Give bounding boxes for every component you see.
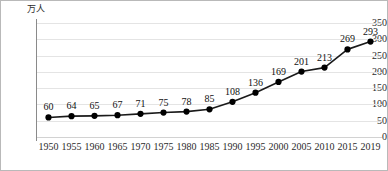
data-point-marker — [45, 114, 51, 120]
x-axis-tick-label: 2019 — [354, 141, 388, 153]
plot-area: 6064656771757885108136169201213269293 — [37, 23, 382, 137]
data-point-label: 169 — [262, 66, 296, 77]
data-point-marker — [275, 79, 281, 85]
data-point-marker — [91, 113, 97, 119]
data-point-label: 293 — [354, 26, 388, 37]
chart-container: 万人 050100150200250300350 606465677175788… — [0, 0, 388, 171]
data-point-marker — [183, 108, 189, 114]
data-point-marker — [344, 46, 350, 52]
data-point-marker — [68, 113, 74, 119]
data-point-marker — [229, 99, 235, 105]
y-axis-unit-label: 万人 — [27, 4, 45, 14]
data-point-label: 213 — [308, 52, 342, 63]
data-point-marker — [137, 111, 143, 117]
gridline — [37, 137, 382, 138]
data-point-marker — [321, 65, 327, 71]
x-axis-tick-labels: 1950195519601965197019751980198519901995… — [37, 141, 382, 157]
data-point-marker — [206, 106, 212, 112]
data-point-label: 136 — [239, 77, 273, 88]
data-point-marker — [114, 112, 120, 118]
data-point-marker — [252, 90, 258, 96]
data-point-marker — [367, 38, 373, 44]
data-point-marker — [298, 68, 304, 74]
data-point-marker — [160, 109, 166, 115]
